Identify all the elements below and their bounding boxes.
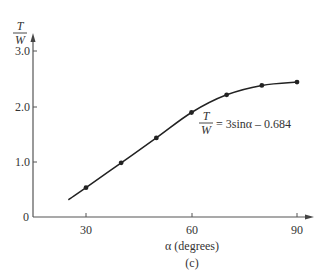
svg-text:T: T — [17, 19, 25, 33]
svg-text:W: W — [15, 33, 26, 47]
data-point — [259, 83, 264, 88]
data-point — [295, 80, 300, 85]
y-tick-label: 1.0 — [15, 155, 30, 169]
y-axis-title: T W — [13, 19, 27, 47]
equation-annotation: T W = 3sinα – 0.684 — [199, 109, 291, 137]
x-tick-label: 60 — [186, 223, 198, 237]
data-point — [119, 160, 124, 165]
x-axis-title: α (degrees) — [165, 239, 219, 253]
data-point — [154, 136, 159, 141]
data-point — [224, 92, 229, 97]
data-points — [84, 80, 300, 190]
svg-text:W: W — [201, 123, 212, 137]
y-tick-label: 2.0 — [15, 100, 30, 114]
data-line — [68, 82, 297, 200]
y-axis-arrow-icon — [31, 33, 36, 42]
svg-text:T: T — [203, 109, 211, 123]
x-axis-arrow-icon — [305, 215, 314, 220]
data-point — [189, 110, 194, 115]
data-point — [84, 185, 89, 190]
x-tick-label: 30 — [80, 223, 92, 237]
figure-caption: (c) — [185, 256, 198, 270]
y-tick-label: 0 — [23, 210, 29, 224]
chart: 0 1.0 2.0 3.0 30 60 90 T W α (degrees) (… — [0, 0, 336, 277]
x-tick-label: 90 — [291, 223, 303, 237]
svg-text:= 3sinα – 0.684: = 3sinα – 0.684 — [216, 117, 291, 131]
